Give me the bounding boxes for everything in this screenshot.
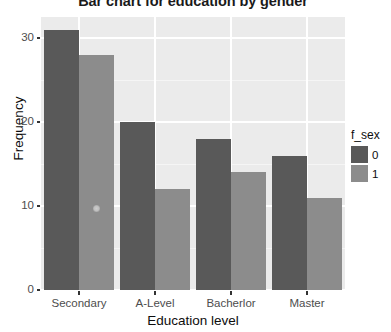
legend-item-label: 1 bbox=[372, 168, 378, 180]
bar bbox=[120, 122, 155, 290]
x-tick-label: Master bbox=[257, 297, 357, 309]
bar bbox=[307, 198, 342, 290]
x-axis-title: Education level bbox=[41, 313, 345, 328]
bar bbox=[231, 172, 266, 290]
bar bbox=[196, 139, 231, 290]
bar-chart: Bar chart for education by gender 010203… bbox=[0, 0, 391, 332]
bar bbox=[155, 189, 190, 290]
legend-item[interactable]: 1 bbox=[351, 164, 380, 183]
x-tick-mark bbox=[230, 291, 231, 295]
y-tick-label: 30 bbox=[6, 32, 34, 44]
y-tick-mark bbox=[37, 37, 41, 38]
legend-items: 01 bbox=[351, 145, 380, 183]
gridline-major-horizontal bbox=[41, 37, 345, 38]
y-tick-mark bbox=[37, 289, 41, 290]
x-tick-mark bbox=[78, 291, 79, 295]
bar bbox=[44, 30, 79, 290]
y-tick-label: 10 bbox=[6, 200, 34, 212]
bar bbox=[79, 55, 114, 290]
legend: f_sex 01 bbox=[351, 128, 380, 183]
x-tick-mark bbox=[306, 291, 307, 295]
chart-title: Bar chart for education by gender bbox=[41, 0, 345, 9]
y-tick-label: 0 bbox=[6, 284, 34, 296]
y-tick-mark bbox=[37, 205, 41, 206]
plot-panel bbox=[41, 17, 345, 290]
y-axis-title: Frequency bbox=[11, 74, 26, 184]
image-artifact-speck bbox=[93, 205, 100, 212]
bar bbox=[272, 156, 307, 290]
legend-item-label: 0 bbox=[372, 149, 378, 161]
legend-swatch bbox=[351, 165, 368, 182]
legend-swatch bbox=[351, 146, 368, 163]
x-tick-mark bbox=[154, 291, 155, 295]
legend-item[interactable]: 0 bbox=[351, 145, 380, 164]
legend-title: f_sex bbox=[351, 128, 380, 142]
y-tick-mark bbox=[37, 121, 41, 122]
